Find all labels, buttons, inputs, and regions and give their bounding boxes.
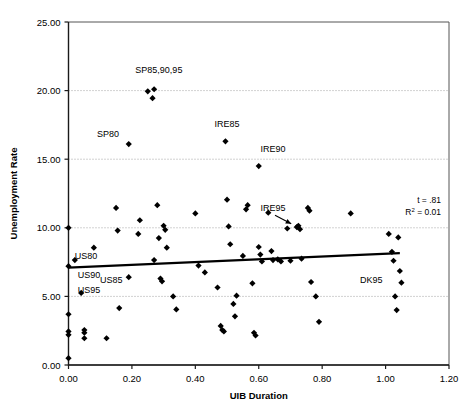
data-point (145, 88, 151, 94)
r-squared-label: R2 = 0.01 (405, 207, 441, 218)
data-point (256, 163, 262, 169)
data-point (65, 311, 71, 317)
data-point (195, 262, 201, 268)
point-annotation-label: US90 (78, 270, 101, 280)
data-point (65, 225, 71, 231)
data-point (135, 231, 141, 237)
x-axis-tick-label: 0.20 (123, 373, 142, 384)
chart-canvas: 0.005.0010.0015.0020.0025.000.000.200.40… (0, 0, 472, 414)
data-point (65, 332, 71, 338)
data-point (91, 245, 97, 251)
y-axis-tick-label: 15.00 (37, 154, 61, 165)
y-axis-tick-label: 5.00 (42, 291, 61, 302)
data-point (230, 301, 236, 307)
data-point (268, 248, 274, 254)
data-point (224, 197, 230, 203)
y-axis-tick-label: 25.00 (37, 17, 61, 28)
data-point (398, 280, 404, 286)
x-axis-tick-label: 0.00 (59, 373, 78, 384)
data-point (81, 335, 87, 341)
x-axis-tick-label: 0.60 (250, 373, 269, 384)
y-axis-tick-label: 10.00 (37, 222, 61, 233)
x-axis-tick-label: 1.00 (376, 373, 395, 384)
x-axis-tick-label: 0.40 (186, 373, 205, 384)
point-annotation-label: IRE95 (261, 203, 286, 213)
data-point (226, 223, 232, 229)
trendline (69, 253, 400, 267)
x-axis-title: UIB Duration (230, 390, 288, 401)
data-point (256, 244, 262, 250)
plot-frame (69, 22, 450, 365)
data-point (192, 210, 198, 216)
point-annotation-label: SP85,90,95 (135, 65, 182, 75)
axis-lines (69, 22, 450, 365)
data-point (137, 217, 143, 223)
data-point (240, 253, 246, 259)
data-point (65, 355, 71, 361)
data-point (116, 305, 122, 311)
data-point (233, 293, 239, 299)
data-point (214, 284, 220, 290)
data-point (308, 279, 314, 285)
y-axis-tick-label: 20.00 (37, 85, 61, 96)
data-point (164, 245, 170, 251)
scatter-chart: 0.005.0010.0015.0020.0025.000.000.200.40… (0, 0, 472, 414)
x-axis-tick-label: 1.20 (440, 373, 459, 384)
data-point (392, 293, 398, 299)
point-annotation-label: US80 (75, 251, 98, 261)
point-annotation-label: SP80 (97, 129, 119, 139)
data-point (232, 313, 238, 319)
data-point (115, 227, 121, 233)
point-annotation-label: US95 (78, 285, 101, 295)
data-point (394, 307, 400, 313)
data-point (348, 210, 354, 216)
point-annotation-label: IRE85 (215, 119, 240, 129)
data-point (397, 268, 403, 274)
point-annotation-label: DK95 (360, 275, 383, 285)
data-point (284, 225, 290, 231)
data-point (173, 306, 179, 312)
data-point (386, 231, 392, 237)
point-annotation-label: US85 (100, 275, 123, 285)
y-axis-tick-label: 0.00 (42, 360, 61, 371)
data-point (126, 141, 132, 147)
data-point (170, 293, 176, 299)
data-point (154, 202, 160, 208)
data-point (156, 235, 162, 241)
data-point (390, 258, 396, 264)
data-point (151, 86, 157, 92)
x-axis-tick-label: 0.80 (313, 373, 332, 384)
y-axis-title: Unemployment Rate (8, 148, 19, 240)
data-point (222, 138, 228, 144)
data-point (257, 251, 263, 257)
data-point (103, 335, 109, 341)
data-point (113, 205, 119, 211)
data-point (249, 280, 255, 286)
data-point (126, 274, 132, 280)
data-point (316, 319, 322, 325)
t-statistic-label: t = .81 (417, 195, 441, 205)
data-point (395, 234, 401, 240)
data-point (149, 95, 155, 101)
data-point (202, 269, 208, 275)
point-annotation-label: IRE90 (261, 144, 286, 154)
data-point (227, 241, 233, 247)
data-point (313, 293, 319, 299)
data-point (151, 257, 157, 263)
